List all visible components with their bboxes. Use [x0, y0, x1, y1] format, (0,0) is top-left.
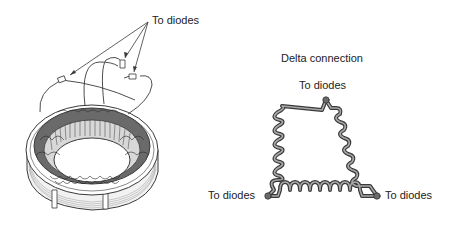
- delta-left-to-diodes-label: To diodes: [208, 190, 255, 201]
- terminal-connector: [120, 60, 125, 68]
- delta-right-to-diodes-label: To diodes: [385, 190, 432, 201]
- terminal-node-top: [323, 97, 329, 103]
- terminal-node-left: [265, 193, 271, 199]
- delta-connection-title: Delta connection: [281, 53, 363, 64]
- terminal-connector: [57, 76, 65, 83]
- clamp: [52, 190, 57, 208]
- terminal-node-right: [374, 193, 380, 199]
- delta-top-to-diodes-label: To diodes: [299, 80, 346, 91]
- stator-to-diodes-label: To diodes: [152, 15, 199, 26]
- delta-connection-diagram: [265, 97, 380, 199]
- terminal-connector: [129, 74, 136, 79]
- stator-illustration: [26, 22, 158, 210]
